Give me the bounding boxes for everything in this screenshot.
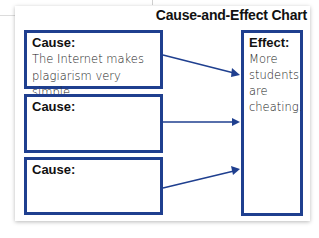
arrows bbox=[0, 0, 319, 238]
arrow-head-icon bbox=[232, 118, 240, 126]
arrow-cause3-to-effect bbox=[163, 171, 234, 188]
arrow-head-icon bbox=[231, 166, 240, 175]
arrow-head-icon bbox=[231, 68, 240, 77]
arrow-cause1-to-effect bbox=[163, 55, 234, 73]
